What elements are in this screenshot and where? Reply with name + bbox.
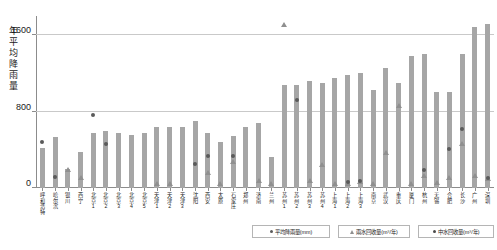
x-tick-mark (437, 188, 438, 191)
triangle-icon (383, 150, 389, 155)
x-tick-mark (399, 188, 400, 191)
x-tick-mark (208, 188, 209, 191)
dot-icon (346, 180, 350, 184)
x-tick-mark (144, 188, 145, 191)
legend-item-reclaimed[interactable]: 中水回收量(m³/年) (418, 225, 494, 238)
x-tick-mark (131, 188, 132, 191)
triangle-icon (350, 230, 354, 234)
dot-icon (91, 113, 95, 117)
x-tick-label: 济南 (255, 193, 262, 204)
dot-icon (104, 142, 108, 146)
dot-icon (460, 127, 464, 131)
triangle-icon (408, 181, 414, 186)
x-tick-mark (182, 188, 183, 191)
x-tick-label: 苏州2 (293, 193, 300, 210)
dot-icon (433, 230, 437, 234)
x-axis-labels: 呼和浩特哈尔滨银川西宁北京1北京2北京3北京4北京5天津1天津2天津3沈阳西安太… (36, 190, 494, 230)
x-tick-mark (386, 188, 387, 191)
triangle-icon (307, 178, 313, 183)
x-tick-label: 杭州 (421, 193, 428, 204)
x-tick-label: 南京 (370, 193, 377, 204)
x-tick-mark (93, 188, 94, 191)
triangle-icon (319, 162, 325, 167)
dot-icon (447, 147, 451, 151)
dot-icon (422, 168, 426, 172)
x-tick-mark (373, 188, 374, 191)
x-tick-mark (106, 188, 107, 191)
triangle-icon (281, 22, 287, 27)
x-tick-mark (42, 188, 43, 191)
dot-icon (53, 175, 57, 179)
x-tick-label: 苏州4 (319, 193, 326, 210)
x-tick-mark (335, 188, 336, 191)
x-tick-mark (246, 188, 247, 191)
rainfall-recovery-chart: 年平均降雨量 08001600 呼和浩特哈尔滨银川西宁北京1北京2北京3北京4北… (0, 0, 497, 250)
triangle-icon (396, 103, 402, 108)
x-tick-label: 厦门 (408, 193, 415, 204)
x-tick-mark (462, 188, 463, 191)
x-tick-label: 武汉 (382, 193, 389, 204)
x-tick-mark (157, 188, 158, 191)
y-tick-label: 800 (16, 102, 31, 112)
dot-icon (231, 154, 235, 158)
legend-label: 雨水回收量(m³/年) (356, 228, 397, 236)
x-tick-label: 无锡 (433, 193, 440, 204)
x-tick-label: 北京4 (128, 193, 135, 210)
x-tick-mark (259, 188, 260, 191)
y-tick-label: 0 (26, 178, 31, 188)
y-axis-title: 年平均降雨量 (6, 26, 20, 92)
triangle-icon (78, 175, 84, 180)
x-tick-mark (195, 188, 196, 191)
dot-icon (295, 98, 299, 102)
triangle-icon (217, 181, 223, 186)
triangle-icon (167, 181, 173, 186)
x-tick-label: 天津3 (179, 193, 186, 210)
x-tick-mark (424, 188, 425, 191)
x-tick-label: 太原 (217, 193, 224, 204)
dot-icon (193, 162, 197, 166)
x-tick-mark (475, 188, 476, 191)
x-tick-label: 呼和浩特 (39, 193, 46, 215)
x-tick-label: 北京5 (141, 193, 148, 210)
x-tick-label: 北京3 (115, 193, 122, 210)
x-tick-label: 广州 (471, 193, 478, 204)
triangle-icon (65, 167, 71, 172)
y-tick-label: 1600 (11, 25, 31, 35)
triangle-icon (268, 181, 274, 186)
x-tick-label: 西安 (204, 193, 211, 204)
x-tick-mark (271, 188, 272, 191)
x-tick-mark (119, 188, 120, 191)
x-tick-mark (233, 188, 234, 191)
x-tick-mark (488, 188, 489, 191)
x-tick-label: 上海2 (344, 193, 351, 210)
x-tick-label: 银川 (64, 193, 71, 204)
triangle-icon (230, 159, 236, 164)
x-tick-label: 西宁 (77, 193, 84, 204)
x-tick-label: 深圳 (484, 193, 491, 204)
x-tick-mark (322, 188, 323, 191)
x-tick-mark (297, 188, 298, 191)
plot-area: 08001600 (36, 16, 494, 188)
legend-item-rainfall[interactable]: 平均降雨量(mm) (252, 225, 330, 238)
triangle-icon (446, 175, 452, 180)
x-tick-label: 天津2 (166, 193, 173, 210)
x-tick-mark (170, 188, 171, 191)
triangle-icon (256, 178, 262, 183)
x-tick-label: 合肥 (446, 193, 453, 204)
legend-item-rainwater[interactable]: 雨水回收量(m³/年) (338, 225, 410, 238)
x-tick-mark (411, 188, 412, 191)
x-tick-mark (220, 188, 221, 191)
triangle-icon (154, 181, 160, 186)
x-tick-label: 哈尔滨 (52, 193, 59, 210)
dot-icon (486, 176, 490, 180)
x-tick-label: 上海3 (357, 193, 364, 210)
triangle-icon (370, 181, 376, 186)
x-tick-mark (284, 188, 285, 191)
chart-legend: 平均降雨量(mm) 雨水回收量(m³/年) 中水回收量(m³/年) (252, 225, 494, 240)
dot-icon (206, 154, 210, 158)
x-tick-label: 苏州1 (281, 193, 288, 210)
x-tick-mark (68, 188, 69, 191)
x-tick-label: 上海1 (331, 193, 338, 210)
triangle-icon (205, 170, 211, 175)
x-tick-label: 石家庄 (230, 193, 237, 210)
